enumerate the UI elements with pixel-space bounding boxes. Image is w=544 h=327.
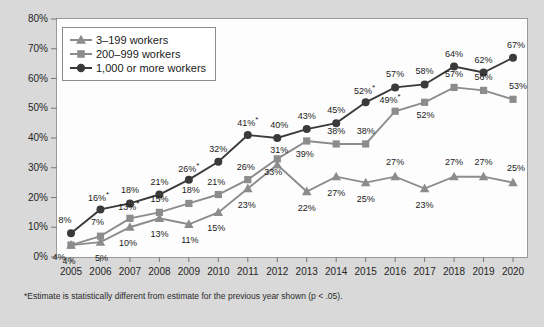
data-point-marker [362, 98, 370, 106]
data-point-marker [509, 96, 516, 103]
data-label: 23% [238, 200, 256, 210]
data-point-marker [392, 108, 399, 115]
y-tick-label: 30% [8, 162, 48, 173]
data-point-marker [214, 158, 222, 166]
data-point-marker [273, 134, 281, 142]
data-point-marker [67, 229, 75, 237]
data-label: 57% [386, 69, 404, 79]
data-label: 62% [475, 55, 493, 65]
data-label: 18% [121, 185, 139, 195]
data-label: 8% [58, 215, 71, 225]
legend-item[interactable]: 1,000 or more workers [69, 61, 206, 75]
data-point-marker [509, 54, 517, 62]
data-label: 52% [417, 110, 435, 120]
data-label: 25% [507, 163, 525, 173]
data-label: 45% [327, 105, 345, 115]
data-label: 40% [270, 120, 288, 130]
legend-label: 3–199 workers [93, 34, 168, 46]
data-label: 15% [207, 223, 225, 233]
data-label: 7% [91, 217, 104, 227]
data-point-marker [96, 205, 104, 213]
data-label: 67% [507, 40, 525, 50]
y-tick-label: 10% [8, 221, 48, 232]
data-point-marker [274, 155, 281, 162]
data-label: 58% [416, 66, 434, 76]
data-point-marker [156, 209, 163, 216]
square-marker-icon [69, 47, 93, 61]
data-label: 32% [209, 144, 227, 154]
data-point-marker [97, 233, 104, 240]
data-point-marker [303, 125, 311, 133]
data-label: 15% [150, 194, 168, 204]
data-point-marker [244, 131, 252, 139]
data-point-marker [390, 172, 400, 181]
data-label: 49%* [380, 92, 401, 105]
data-point-marker [303, 137, 310, 144]
data-point-marker [333, 140, 340, 147]
data-point-marker [421, 99, 428, 106]
legend-item[interactable]: 3–199 workers [69, 33, 206, 47]
data-point-marker [391, 83, 399, 91]
data-point-marker [215, 191, 222, 198]
data-label: 38% [357, 126, 375, 136]
data-point-marker [450, 84, 457, 91]
data-label: 25% [357, 194, 375, 204]
legend-label: 1,000 or more workers [93, 62, 206, 74]
y-tick-label: 0% [8, 251, 48, 262]
data-label: 27% [327, 188, 345, 198]
data-point-marker [244, 176, 251, 183]
data-label: 26%* [178, 160, 199, 173]
data-label: 27% [475, 157, 493, 167]
y-tick-label: 60% [8, 73, 48, 84]
data-label: 26% [237, 162, 255, 172]
data-point-marker [126, 215, 133, 222]
data-label: 52%* [354, 83, 375, 96]
chart-legend: 3–199 workers200–999 workers1,000 or mor… [62, 27, 216, 81]
y-tick-label: 80% [8, 13, 48, 24]
data-point-marker [185, 200, 192, 207]
data-label: 38% [327, 126, 345, 136]
data-label: 21% [207, 177, 225, 187]
data-label: 27% [386, 157, 404, 167]
data-label: 18% [182, 185, 200, 195]
data-label: 13%* [118, 199, 139, 212]
y-tick-label: 40% [8, 132, 48, 143]
data-label: 57% [445, 69, 463, 79]
chart-figure: 0%10%20%30%40%50%60%70%80% 2005200620072… [0, 0, 544, 327]
y-tick-label: 50% [8, 102, 48, 113]
data-label: 53% [509, 81, 527, 91]
data-label: 4% [52, 252, 65, 262]
data-label: 27% [445, 157, 463, 167]
data-point-marker [185, 176, 193, 184]
legend-label: 200–999 workers [93, 48, 180, 60]
data-label: 33% [264, 167, 282, 177]
circle-marker-icon [69, 61, 93, 75]
data-label: 64% [445, 49, 463, 59]
data-label: 11% [181, 235, 198, 245]
data-label: 23% [416, 200, 434, 210]
data-point-marker [362, 140, 369, 147]
data-point-marker [331, 172, 341, 181]
y-tick-label: 70% [8, 43, 48, 54]
y-tick-label: 20% [8, 192, 48, 203]
data-label: 56% [475, 72, 493, 82]
data-point-marker [480, 87, 487, 94]
data-label: 22% [298, 203, 316, 213]
data-label: 39% [296, 149, 314, 159]
x-tick-label: 2020 [493, 266, 533, 277]
data-label: 10% [119, 238, 137, 248]
data-label: 16%* [88, 190, 109, 203]
data-point-marker [421, 80, 429, 88]
data-label: 43% [298, 111, 316, 121]
data-label: 41%* [237, 115, 258, 128]
footnote: *Estimate is statistically different fro… [24, 291, 343, 301]
data-label: 21% [150, 177, 168, 187]
triangle-marker-icon [69, 33, 93, 47]
data-point-marker [67, 242, 74, 249]
data-label: 5% [95, 253, 108, 263]
data-label: 31% [270, 145, 288, 155]
legend-item[interactable]: 200–999 workers [69, 47, 206, 61]
data-label: 13% [150, 229, 168, 239]
